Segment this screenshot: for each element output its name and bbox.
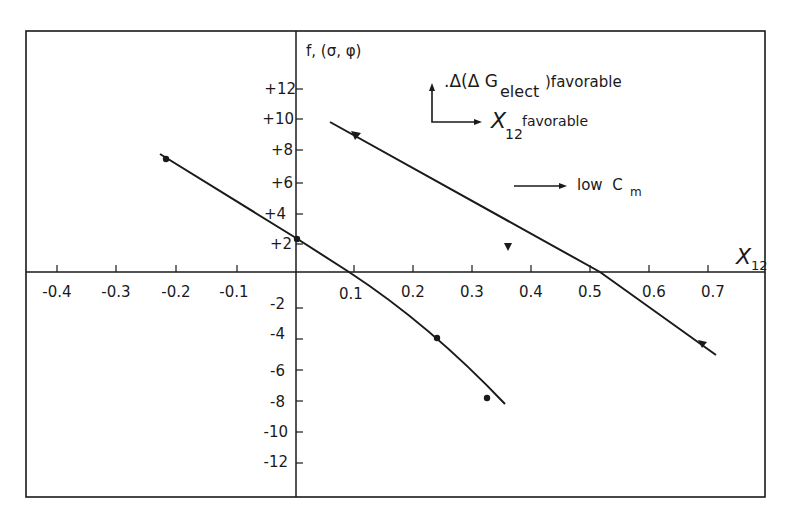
corner-arrow-line	[432, 88, 476, 122]
y-tick-label: -10	[264, 423, 289, 441]
annotation-dG: .Δ(Δ G elect )favorable	[444, 71, 622, 101]
x-tick-label: 0.7	[701, 283, 725, 301]
y-tick-label: +6	[271, 174, 293, 192]
data-point-dot	[294, 236, 300, 242]
chart: -0.4 -0.3 -0.2 -0.1 0.1 0.2 0.3 0.4 0.5 …	[0, 0, 793, 513]
right-curve	[330, 122, 716, 355]
x-tick-label: 0.4	[519, 283, 543, 301]
x-tick-label: -0.2	[161, 283, 190, 301]
annotation-low-cm: low C m	[577, 176, 642, 199]
annotation-low-cm-sub: m	[630, 185, 642, 199]
favorable-arrows	[432, 88, 476, 122]
x-ticks	[57, 265, 708, 272]
plot-frame	[26, 31, 765, 497]
x-axis-label-sub: 12	[751, 258, 768, 273]
data-point-dot	[484, 395, 490, 401]
x-tick-labels: -0.4 -0.3 -0.2 -0.1 0.1 0.2 0.3 0.4 0.5 …	[42, 283, 725, 303]
y-tick-label: +8	[271, 141, 293, 159]
x-axis-label-main: X	[735, 244, 752, 269]
x-tick-label: -0.1	[219, 283, 248, 301]
y-tick-label: -12	[264, 453, 289, 471]
data-point-triangle	[504, 243, 512, 251]
y-tick-label: +2	[270, 235, 292, 253]
arrow-up-icon	[429, 83, 435, 91]
x-tick-label: -0.4	[42, 283, 71, 301]
annotation-x12: X 12 favorable	[490, 108, 588, 142]
x-tick-label: 0.5	[578, 283, 602, 301]
x-tick-label: 0.2	[401, 283, 425, 301]
y-tick-labels: +12 +10 +8 +6 +4 +2 -2 -4 -6 -8 -10 -12	[262, 80, 296, 471]
annotation-x12-post: favorable	[522, 113, 588, 129]
x-tick-label: 0.6	[642, 283, 666, 301]
x-tick-label: -0.3	[101, 283, 130, 301]
data-point-dot	[434, 335, 440, 341]
x-tick-label: 0.1	[339, 285, 363, 303]
y-ticks	[296, 89, 303, 463]
annotation-x12-sub: 12	[505, 126, 523, 142]
y-tick-label: +12	[264, 80, 296, 98]
annotation-dG-sub: elect	[500, 82, 539, 101]
y-tick-label: -6	[270, 362, 285, 380]
y-tick-label: -4	[270, 325, 285, 343]
x-axis-label: X 12	[735, 244, 768, 273]
annotation-dG-pre: .Δ(Δ G	[444, 71, 498, 91]
y-tick-label: +10	[262, 110, 294, 128]
y-axis-label: f, (σ, φ)	[306, 42, 361, 60]
data-point-dot	[163, 156, 169, 162]
y-tick-label: -2	[270, 295, 285, 313]
annotation-dG-post: )favorable	[545, 73, 622, 91]
arrow-right-icon	[474, 119, 482, 125]
arrow-right-icon	[559, 183, 567, 189]
annotation-low-cm-main: low C	[577, 176, 623, 194]
y-tick-label: -8	[270, 393, 285, 411]
x-tick-label: 0.3	[460, 283, 484, 301]
